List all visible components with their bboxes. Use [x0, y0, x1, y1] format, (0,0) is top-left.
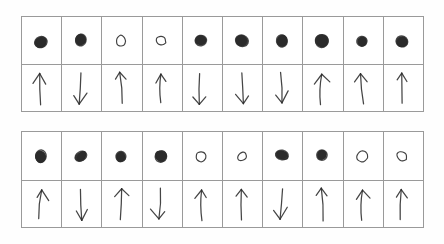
arrow-cell[interactable]: arrow-down — [263, 65, 303, 111]
dot-cell[interactable]: filled-dot — [303, 17, 343, 64]
dot-cell[interactable]: filled-dot — [344, 17, 384, 64]
top-grid-arrow-row: arrow-uparrow-downarrow-uparrow-uparrow-… — [22, 64, 423, 111]
bottom-grid: filled-dotfilled-dotfilled-dotfilled-dot… — [21, 131, 424, 228]
arrow-down-icon — [268, 67, 298, 109]
arrow-cell[interactable]: arrow-up — [384, 181, 423, 228]
arrow-up-icon — [107, 67, 137, 109]
filled-dot-icon — [187, 26, 217, 56]
dot-cell[interactable]: filled-dot — [22, 132, 62, 180]
open-dot-icon — [388, 141, 418, 171]
arrow-down-icon — [67, 67, 97, 109]
bottom-grid-dot-row: filled-dotfilled-dotfilled-dotfilled-dot… — [22, 132, 423, 180]
bottom-grid-arrow-row: arrow-uparrow-downarrow-uparrow-downarro… — [22, 180, 423, 228]
arrow-cell[interactable]: arrow-up — [22, 181, 62, 228]
dot-cell[interactable]: filled-dot — [62, 17, 102, 64]
dot-cell[interactable]: open-dot — [384, 132, 423, 180]
arrow-up-icon — [308, 183, 338, 225]
open-dot-icon — [107, 26, 137, 56]
arrow-up-icon — [187, 183, 217, 225]
open-dot-icon — [348, 141, 378, 171]
arrow-cell[interactable]: arrow-down — [223, 65, 263, 111]
arrow-cell[interactable]: arrow-down — [143, 181, 183, 228]
dot-cell[interactable]: filled-dot — [223, 17, 263, 64]
filled-dot-icon — [67, 141, 97, 171]
arrow-cell[interactable]: arrow-down — [263, 181, 303, 228]
dot-cell[interactable]: filled-dot — [183, 17, 223, 64]
dot-cell[interactable]: filled-dot — [102, 132, 142, 180]
arrow-cell[interactable]: arrow-up — [344, 65, 384, 111]
arrow-up-icon — [348, 183, 378, 225]
filled-dot-icon — [107, 141, 137, 171]
dot-cell[interactable]: filled-dot — [384, 17, 423, 64]
arrow-up-icon — [228, 183, 258, 225]
filled-dot-icon — [268, 141, 298, 171]
arrow-cell[interactable]: arrow-up — [143, 65, 183, 111]
arrow-cell[interactable]: arrow-up — [384, 65, 423, 111]
arrow-down-icon — [268, 183, 298, 225]
arrow-cell[interactable]: arrow-up — [223, 181, 263, 228]
dot-cell[interactable]: filled-dot — [263, 132, 303, 180]
open-dot-icon — [228, 141, 258, 171]
dot-cell[interactable]: filled-dot — [22, 17, 62, 64]
arrow-up-icon — [27, 183, 57, 225]
filled-dot-icon — [308, 141, 338, 171]
filled-dot-icon — [228, 26, 258, 56]
filled-dot-icon — [308, 26, 338, 56]
open-dot-icon — [187, 141, 217, 171]
arrow-cell[interactable]: arrow-up — [102, 181, 142, 228]
open-dot-icon — [147, 26, 177, 56]
arrow-cell[interactable]: arrow-up — [344, 181, 384, 228]
dot-cell[interactable]: filled-dot — [143, 132, 183, 180]
arrow-cell[interactable]: arrow-down — [62, 65, 102, 111]
worksheet-canvas: filled-dotfilled-dotopen-dotopen-dotfill… — [0, 0, 444, 244]
arrow-cell[interactable]: arrow-up — [303, 181, 343, 228]
dot-cell[interactable]: open-dot — [143, 17, 183, 64]
filled-dot-icon — [67, 26, 97, 56]
dot-cell[interactable]: open-dot — [223, 132, 263, 180]
filled-dot-icon — [27, 141, 57, 171]
arrow-up-icon — [388, 67, 418, 109]
filled-dot-icon — [27, 26, 57, 56]
dot-cell[interactable]: filled-dot — [62, 132, 102, 180]
top-grid-dot-row: filled-dotfilled-dotopen-dotopen-dotfill… — [22, 17, 423, 64]
filled-dot-icon — [268, 26, 298, 56]
arrow-up-icon — [107, 183, 137, 225]
arrow-up-icon — [308, 67, 338, 109]
dot-cell[interactable]: filled-dot — [263, 17, 303, 64]
arrow-cell[interactable]: arrow-up — [102, 65, 142, 111]
dot-cell[interactable]: open-dot — [344, 132, 384, 180]
dot-cell[interactable]: open-dot — [183, 132, 223, 180]
dot-cell[interactable]: filled-dot — [303, 132, 343, 180]
dot-cell[interactable]: open-dot — [102, 17, 142, 64]
filled-dot-icon — [147, 141, 177, 171]
arrow-down-icon — [147, 183, 177, 225]
arrow-cell[interactable]: arrow-up — [183, 181, 223, 228]
arrow-down-icon — [187, 67, 217, 109]
arrow-cell[interactable]: arrow-down — [183, 65, 223, 111]
arrow-up-icon — [388, 183, 418, 225]
arrow-cell[interactable]: arrow-up — [22, 65, 62, 111]
arrow-cell[interactable]: arrow-up — [303, 65, 343, 111]
arrow-up-icon — [147, 67, 177, 109]
filled-dot-icon — [388, 26, 418, 56]
top-grid: filled-dotfilled-dotopen-dotopen-dotfill… — [21, 16, 424, 112]
arrow-down-icon — [228, 67, 258, 109]
arrow-down-icon — [67, 183, 97, 225]
arrow-up-icon — [27, 67, 57, 109]
arrow-cell[interactable]: arrow-down — [62, 181, 102, 228]
filled-dot-icon — [348, 26, 378, 56]
arrow-up-icon — [348, 67, 378, 109]
